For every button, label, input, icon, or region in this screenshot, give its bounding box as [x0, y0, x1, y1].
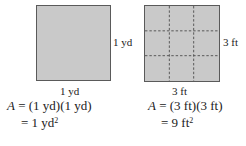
left-equation-rhs: = (1 yd)(1 yd): [18, 98, 91, 113]
right-equation-line2: = 9 ft2: [161, 115, 193, 130]
left-result: = 1 yd: [21, 115, 54, 130]
left-equation-line2: = 1 yd2: [21, 115, 58, 130]
left-exponent: 2: [54, 116, 58, 125]
square-3-feet: [144, 5, 220, 82]
right-result: = 9 ft: [161, 115, 189, 130]
left-square-bottom-label: 1 yd: [60, 86, 79, 97]
right-equation-line1: A = (3 ft)(3 ft): [148, 98, 222, 113]
right-square-side-label: 3 ft: [223, 37, 238, 48]
dashed-grid: [145, 6, 219, 81]
right-exponent: 2: [189, 116, 193, 125]
area-variable: A: [148, 98, 156, 113]
left-square-side-label: 1 yd: [113, 37, 132, 48]
left-equation-line1: A = (1 yd)(1 yd): [7, 98, 92, 113]
right-equation-rhs: = (3 ft)(3 ft): [159, 98, 222, 113]
area-variable: A: [7, 98, 15, 113]
right-square-bottom-label: 3 ft: [172, 86, 187, 97]
square-1-yard: [36, 5, 111, 81]
